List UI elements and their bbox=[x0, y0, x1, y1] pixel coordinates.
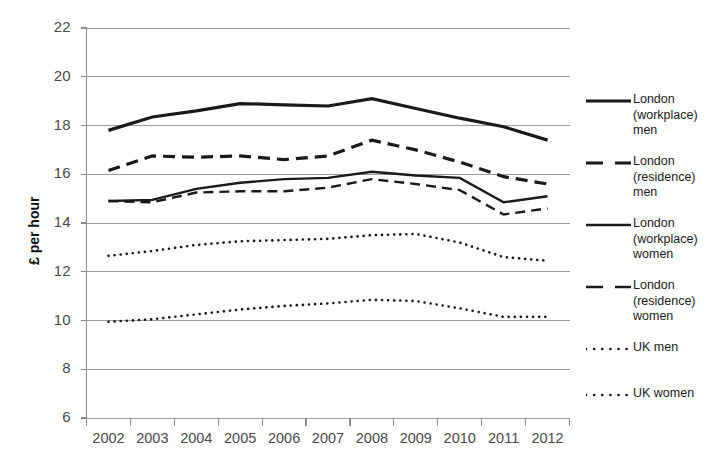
legend-line-sample bbox=[586, 94, 631, 108]
y-tick-label: 8 bbox=[31, 359, 71, 376]
legend-item[interactable]: London (workplace) men bbox=[586, 92, 698, 139]
legend-label: London (residence) men bbox=[633, 154, 696, 201]
x-tick-label: 2012 bbox=[520, 430, 576, 446]
y-tick-label: 6 bbox=[31, 408, 71, 425]
line-chart: £ per hour 6810121416182022 200220032004… bbox=[0, 0, 714, 466]
series-line bbox=[108, 99, 547, 140]
legend-line-sample bbox=[586, 156, 631, 170]
legend-line-sample bbox=[586, 218, 631, 232]
legend-line-sample bbox=[586, 280, 631, 294]
y-tick-label: 20 bbox=[31, 67, 71, 84]
legend-label: London (workplace) men bbox=[633, 92, 698, 139]
series-line bbox=[108, 179, 547, 214]
y-tick-label: 18 bbox=[31, 116, 71, 133]
series-line bbox=[108, 234, 547, 261]
legend-item[interactable]: London (residence) women bbox=[586, 278, 696, 325]
y-axis-ticks bbox=[81, 28, 87, 418]
y-tick-label: 14 bbox=[31, 213, 71, 230]
y-tick-label: 10 bbox=[31, 311, 71, 328]
legend-label: London (residence) women bbox=[633, 278, 696, 325]
legend-label: UK women bbox=[633, 386, 694, 402]
legend-label: UK men bbox=[633, 340, 678, 356]
legend-item[interactable]: London (residence) men bbox=[586, 154, 696, 201]
legend-item[interactable]: UK women bbox=[586, 386, 694, 402]
x-axis-ticks bbox=[87, 418, 570, 426]
legend-line-sample bbox=[586, 388, 631, 402]
legend-line-sample bbox=[586, 342, 631, 356]
data-series bbox=[108, 99, 547, 322]
legend-item[interactable]: UK men bbox=[586, 340, 678, 356]
y-tick-label: 16 bbox=[31, 164, 71, 181]
legend-label: London (workplace) women bbox=[633, 216, 698, 263]
y-tick-label: 12 bbox=[31, 262, 71, 279]
series-line bbox=[108, 300, 547, 322]
legend-item[interactable]: London (workplace) women bbox=[586, 216, 698, 263]
gridlines bbox=[87, 28, 570, 418]
y-axis-title: £ per hour bbox=[26, 197, 42, 265]
y-tick-label: 22 bbox=[31, 18, 71, 35]
